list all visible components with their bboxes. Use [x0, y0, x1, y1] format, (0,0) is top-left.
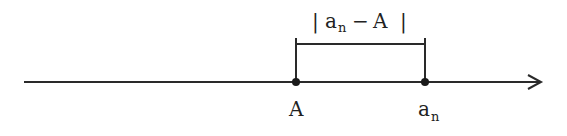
number-line-diagram: | a n − A | A a n [0, 0, 567, 136]
point-an [421, 78, 429, 86]
label-A: A [288, 97, 304, 121]
bracket-label: | a n − A | [312, 9, 407, 37]
point-A [292, 78, 300, 86]
label-an: a n [418, 97, 440, 124]
